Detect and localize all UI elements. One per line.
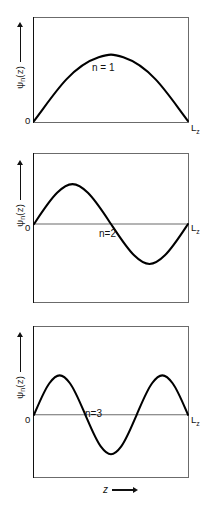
y-axis-label-group-n1: ψn(z): [12, 22, 28, 120]
series-label-n1: n = 1: [92, 63, 115, 73]
arrow-up-icon: [16, 22, 25, 62]
lz-subscript: z: [196, 420, 199, 427]
psi-subscript: n: [19, 388, 26, 392]
psi-suffix: (z): [14, 376, 25, 388]
y-axis-label-n1: ψn(z): [14, 66, 26, 89]
series-label-n2: n=2: [99, 229, 116, 239]
psi-symbol: ψ: [14, 82, 25, 89]
psi-symbol: ψ: [14, 220, 25, 227]
wavefunction-figure: ψn(z) 0 Lz n = 1 ψn(z) 0 Lz n=2 ψn(z) 0 …: [0, 0, 215, 507]
x-tick-zero-n1: 0: [25, 116, 30, 126]
lz-subscript: z: [196, 228, 199, 235]
arrow-up-icon: [16, 160, 25, 200]
y-axis-label-group-n3: ψn(z): [12, 332, 28, 444]
arrow-up-icon: [16, 332, 25, 372]
lz-subscript: z: [196, 128, 199, 135]
psi-subscript: n: [19, 216, 26, 220]
arrow-right-icon: [112, 486, 138, 494]
psi-suffix: (z): [14, 66, 25, 78]
x-tick-lz-n1: Lz: [191, 123, 200, 136]
x-axis-label: z: [103, 485, 108, 495]
x-axis-label-group: z: [103, 485, 138, 495]
psi-suffix: (z): [14, 204, 25, 216]
series-label-n3: n=3: [85, 409, 102, 419]
x-tick-lz-n2: Lz: [191, 223, 200, 236]
x-tick-lz-n3: Lz: [191, 415, 200, 428]
plot-panel-n3: [33, 326, 189, 478]
x-tick-zero-n2: 0: [25, 223, 30, 233]
psi-subscript: n: [19, 78, 26, 82]
curve-n3-svg: [34, 327, 188, 477]
y-axis-label-n3: ψn(z): [14, 376, 26, 399]
x-tick-zero-n3: 0: [25, 415, 30, 425]
y-axis-label-group-n2: ψn(z): [12, 160, 28, 270]
psi-symbol: ψ: [14, 392, 25, 399]
